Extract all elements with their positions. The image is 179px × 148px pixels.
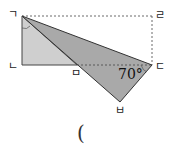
geometry-figure: ㄱ ㄴ ㄷ ㄹ ㅁ ㅂ 70° ( — [0, 0, 179, 148]
label-bieup: ㅂ — [115, 104, 125, 117]
label-mieum: ㅁ — [71, 67, 81, 80]
label-digeut: ㄷ — [155, 60, 165, 73]
answer-parenthesis: ( — [77, 121, 85, 145]
angle-70-label: 70° — [118, 66, 143, 82]
label-nieun: ㄴ — [8, 60, 18, 73]
label-giyeok: ㄱ — [8, 8, 18, 21]
label-rieul: ㄹ — [155, 9, 165, 22]
